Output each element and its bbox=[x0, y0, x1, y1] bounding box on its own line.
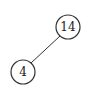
node-4-label: 4 bbox=[19, 65, 27, 79]
edge-14-to-4 bbox=[31, 36, 60, 63]
node-4: 4 bbox=[11, 60, 35, 84]
node-14: 14 bbox=[56, 15, 80, 39]
tree-diagram: 14 4 bbox=[0, 0, 92, 89]
node-14-label: 14 bbox=[60, 20, 76, 34]
